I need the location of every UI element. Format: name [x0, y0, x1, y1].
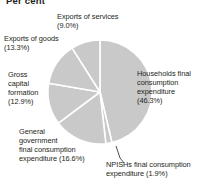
slice-label-exports-of-goods: Exports of goods (13.3%) [4, 34, 70, 52]
slice-label-general-government: General government final consumption exp… [19, 127, 95, 163]
slice-label-exports-of-services: Exports of services (9.0%) [57, 12, 143, 30]
slice-label-households: Households final consumption expenditure… [137, 69, 211, 105]
slice-label-gross-capital-formation: Gross capital formation (12.9%) [8, 70, 52, 106]
pie-chart-figure: Per cent Exports of services (9.0%) Expo… [0, 0, 218, 188]
slice-label-npishs: NPISHs final consumption expenditure (1.… [106, 160, 202, 178]
